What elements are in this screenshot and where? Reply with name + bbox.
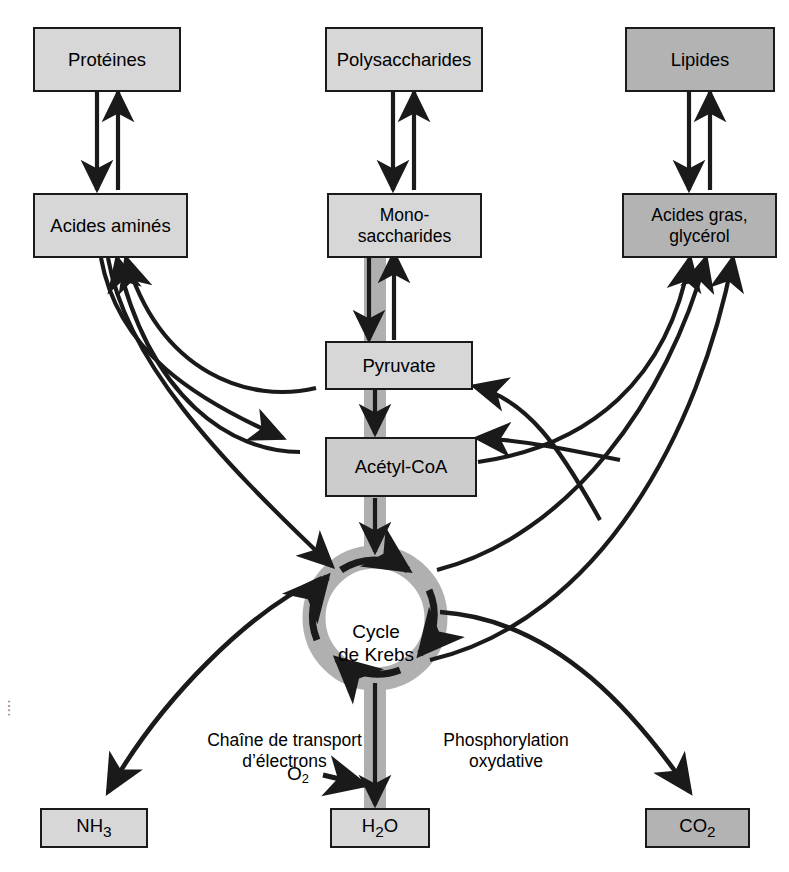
node-ammonia[interactable]: NH3: [40, 808, 148, 848]
curve-krebs-to-fattyacids: [437, 258, 706, 570]
node-proteines-label: Protéines: [64, 49, 150, 71]
reversible-arrows-polysaccharides: [393, 92, 414, 190]
arrow-oxygen-input: [323, 775, 365, 785]
label-electron-transport-chain-text: Chaîne de transport d’électrons: [207, 730, 362, 771]
node-pyruvate-label: Pyruvate: [358, 355, 439, 377]
label-oxidative-phosphorylation-text: Phosphorylation oxydative: [443, 730, 569, 771]
node-acides-gras-label: Acides gras, glycérol: [647, 205, 751, 246]
diagram-canvas: [0, 0, 789, 872]
node-pyruvate[interactable]: Pyruvate: [325, 341, 473, 390]
node-lipides-label: Lipides: [667, 49, 734, 71]
cropped-caption-text: • • • •: [5, 700, 12, 716]
curve-aminoacids-to-krebs: [108, 258, 332, 566]
krebs-cycle-text: Cycle de Krebs: [338, 621, 414, 665]
node-ammonia-label: NH3: [76, 815, 111, 841]
node-monosaccharides-label: Mono- saccharides: [354, 205, 455, 246]
label-electron-transport-chain: Chaîne de transport d’électrons: [187, 709, 382, 772]
reversible-arrows-lipides: [689, 92, 710, 190]
reversible-arrows-proteines: [97, 92, 118, 190]
curve-acetylcoa-to-fattyacids: [478, 258, 690, 462]
node-carbon-dioxide-label: CO2: [679, 815, 715, 841]
krebs-cycle-label: Cycle de Krebs: [320, 598, 432, 666]
node-carbon-dioxide[interactable]: CO2: [645, 808, 750, 848]
node-acetyl-coa-label: Acétyl-CoA: [351, 456, 452, 478]
metabolic-pathway-diagram: Protéines Polysaccharides Lipides Acides…: [0, 0, 789, 872]
node-polysaccharides-label: Polysaccharides: [333, 49, 476, 71]
node-acides-gras[interactable]: Acides gras, glycérol: [622, 193, 777, 258]
node-acides-amines[interactable]: Acides aminés: [33, 193, 188, 258]
node-lipides[interactable]: Lipides: [625, 27, 775, 92]
curve-aminoacids-to-acetylcoa: [101, 258, 283, 438]
node-acetyl-coa[interactable]: Acétyl-CoA: [325, 437, 477, 497]
cropped-caption-fragment: • • • •: [2, 700, 14, 716]
node-polysaccharides[interactable]: Polysaccharides: [325, 27, 483, 92]
node-monosaccharides[interactable]: Mono- saccharides: [327, 193, 482, 258]
node-acides-amines-label: Acides aminés: [46, 215, 174, 237]
node-water[interactable]: H2O: [330, 808, 430, 848]
node-proteines[interactable]: Protéines: [33, 27, 181, 92]
label-oxidative-phosphorylation: Phosphorylation oxydative: [411, 709, 601, 772]
node-water-label: H2O: [362, 815, 398, 841]
label-oxygen: O2: [287, 763, 309, 786]
